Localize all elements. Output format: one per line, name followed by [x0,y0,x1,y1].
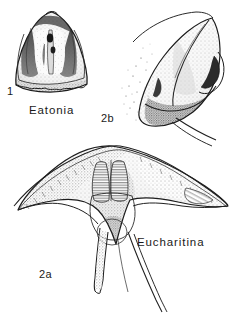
illustration-plate: 1 Eatonia 2b 2a Eucharitina [0,0,236,314]
figure-1-number-label: 1 [7,86,14,97]
muscle-scar-right [110,161,128,202]
figure-2a-drawing [10,140,236,312]
figure-2a-taxon-label: Eucharitina [137,237,204,249]
figure-2b-drawing [122,12,236,146]
figure-1-drawing [10,8,94,98]
muscle-scar-left [92,162,109,203]
figure-2a-number-label: 2a [39,269,52,280]
plate-artwork [0,0,236,314]
figure-1-taxon-label: Eatonia [29,105,74,117]
figure-2b-number-label: 2b [101,113,114,124]
